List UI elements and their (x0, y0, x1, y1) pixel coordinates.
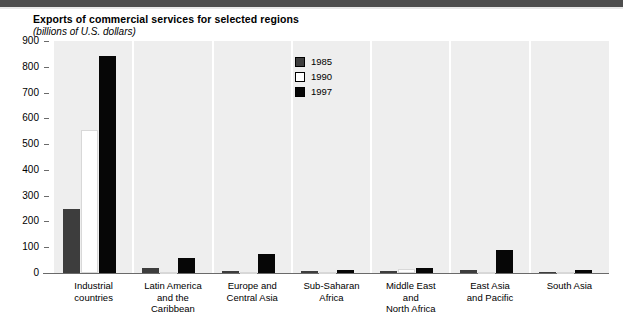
y-axis-tick-mark (44, 67, 49, 68)
x-axis-category-line: Sub-Saharan (292, 280, 371, 292)
bar-1997 (178, 258, 195, 273)
x-axis-category-label: East Asiaand Pacific (450, 280, 529, 303)
legend-swatch-1985 (295, 57, 305, 67)
bar-1990 (478, 272, 495, 274)
x-axis-category-line: Africa (292, 292, 371, 304)
bar-1985 (460, 270, 477, 273)
x-axis-category-line: Industrial (54, 280, 133, 292)
bar-1985 (222, 271, 239, 273)
y-axis-tick-label: 400 (5, 165, 39, 175)
x-axis-category-line: Central Asia (213, 292, 292, 304)
legend-label-1997: 1997 (311, 87, 332, 97)
bar-1997 (416, 268, 433, 273)
bar-1997 (496, 250, 513, 273)
y-axis-tick-mark (44, 118, 49, 119)
x-axis-category-label: South Asia (530, 280, 609, 292)
bar-1990 (160, 272, 177, 274)
bar-1997 (337, 270, 354, 273)
y-axis-tick-label: 200 (5, 216, 39, 226)
y-axis-tick-mark (44, 41, 49, 42)
y-axis-tick-mark (44, 144, 49, 145)
legend-label-1985: 1985 (311, 57, 332, 67)
x-axis-category-line: South Asia (530, 280, 609, 292)
x-axis-category-line: Middle East (371, 280, 450, 292)
legend-item: 1997 (295, 84, 332, 99)
bar-1990 (398, 269, 415, 273)
y-axis-tick-mark (44, 170, 49, 171)
bar-1997 (258, 254, 275, 273)
x-axis-category-line: Caribbean (133, 303, 212, 315)
bar-1985 (63, 209, 80, 273)
bar-1997 (575, 270, 592, 273)
bar-1985 (380, 271, 397, 273)
legend-item: 1990 (295, 69, 332, 84)
x-axis-category-line: and (371, 292, 450, 304)
x-axis-category-line: East Asia (450, 280, 529, 292)
y-axis-tick-label: 600 (5, 113, 39, 123)
legend-swatch-1997 (295, 87, 305, 97)
legend-label-1990: 1990 (311, 72, 332, 82)
y-axis-tick-mark (44, 93, 49, 94)
x-axis-category-line: Europe and (213, 280, 292, 292)
y-axis-tick-label: 800 (5, 62, 39, 72)
y-axis-tick-label: 700 (5, 88, 39, 98)
y-axis-tick-label: 0 (5, 268, 39, 278)
bar-1990 (81, 130, 98, 273)
x-axis-category-line: and the (133, 292, 212, 304)
bar-1985 (539, 272, 556, 273)
x-axis-category-label: Europe andCentral Asia (213, 280, 292, 303)
y-axis-tick-label: 300 (5, 191, 39, 201)
y-axis-tick-mark (44, 221, 49, 222)
x-axis-category-line: North Africa (371, 303, 450, 315)
legend-swatch-1990 (295, 72, 305, 82)
y-axis-tick-label: 100 (5, 242, 39, 252)
bar-1997 (99, 56, 116, 273)
y-axis-tick-label: 900 (5, 36, 39, 46)
x-axis-category-line: countries (54, 292, 133, 304)
chart-legend: 1985 1990 1997 (295, 54, 332, 99)
bar-1990 (319, 272, 336, 274)
x-axis-category-label: Latin Americaand theCaribbean (133, 280, 212, 315)
bar-1990 (240, 272, 257, 274)
y-axis-tick-mark (44, 247, 49, 248)
bar-1985 (142, 268, 159, 273)
bar-1990 (557, 272, 574, 274)
bar-1985 (301, 271, 318, 273)
x-axis-category-label: Industrialcountries (54, 280, 133, 303)
x-axis-category-line: Latin America (133, 280, 212, 292)
x-axis-category-label: Middle EastandNorth Africa (371, 280, 450, 315)
legend-item: 1985 (295, 54, 332, 69)
y-axis-tick-label: 500 (5, 139, 39, 149)
x-axis-category-line: and Pacific (450, 292, 529, 304)
y-axis-tick-mark (44, 196, 49, 197)
x-axis-category-label: Sub-SaharanAfrica (292, 280, 371, 303)
